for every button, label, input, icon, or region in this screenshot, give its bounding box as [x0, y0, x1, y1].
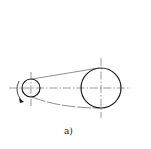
rotation-arrow-icon: [17, 81, 21, 100]
belt-lower-span: [32, 97, 100, 108]
diagram-caption: a): [64, 126, 73, 136]
belt-upper-span: [32, 68, 99, 79]
rotation-arrowhead-icon: [19, 98, 24, 103]
belt-drive-diagram: [0, 0, 151, 149]
